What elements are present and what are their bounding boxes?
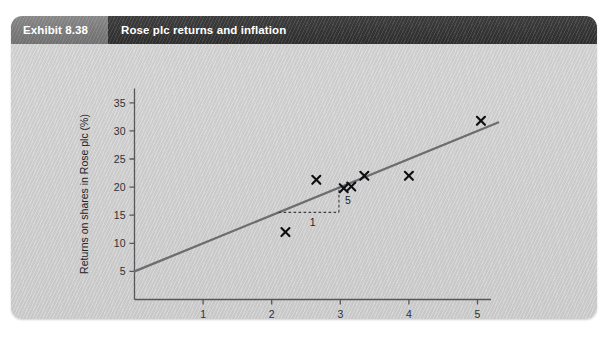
y-tick-label-10: 10 <box>114 237 126 249</box>
line-of-best-fit <box>135 122 499 271</box>
exhibit-title: Rose plc returns and inflation <box>108 16 597 44</box>
trend-line-group <box>135 122 499 271</box>
slope-run-label: 1 <box>310 216 316 228</box>
exhibit-number-label: Exhibit 8.38 <box>11 16 108 44</box>
exhibit-header: Exhibit 8.38 Rose plc returns and inflat… <box>11 16 597 44</box>
slope-rise-label: 5 <box>345 194 351 206</box>
y-tick-label-15: 15 <box>114 209 126 221</box>
data-point <box>477 117 485 125</box>
y-tick-label-20: 20 <box>114 181 126 193</box>
chart-plot-area: 5101520253035 12345 1 5 Inflation % per … <box>11 44 597 319</box>
data-point <box>405 172 413 180</box>
data-point <box>281 228 289 236</box>
exhibit-figure-panel: Exhibit 8.38 Rose plc returns and inflat… <box>11 16 597 319</box>
y-tick-label-30: 30 <box>114 125 126 137</box>
chart-axes <box>135 89 492 300</box>
y-axis-title: Returns on shares in Rose plc (%) <box>78 114 90 274</box>
data-point <box>312 176 320 184</box>
x-tick-label-4: 4 <box>406 308 412 320</box>
y-tick-label-35: 35 <box>114 97 126 109</box>
y-tick-label-5: 5 <box>120 265 126 277</box>
x-tick-label-1: 1 <box>200 308 206 320</box>
y-tick-label-25: 25 <box>114 153 126 165</box>
x-tick-label-2: 2 <box>269 308 275 320</box>
scatter-chart-svg: 5101520253035 12345 1 5 Inflation % per … <box>11 44 597 319</box>
x-axis-ticks: 12345 <box>200 300 480 320</box>
x-tick-label-5: 5 <box>475 308 481 320</box>
y-axis-ticks: 5101520253035 <box>114 97 135 278</box>
x-tick-label-3: 3 <box>337 308 343 320</box>
